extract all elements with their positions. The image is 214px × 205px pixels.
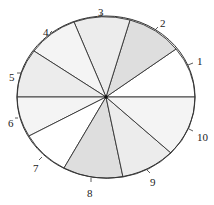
sector-label-4: 4 [43,26,49,38]
spinner-diagram: 12345678910 [0,0,214,205]
sector-label-8: 8 [87,187,93,199]
label-tick-1 [188,63,193,65]
sector-label-6: 6 [8,117,14,129]
sector-label-3: 3 [98,6,104,18]
spinner-center-dot [104,95,108,99]
sector-label-2: 2 [160,17,166,29]
label-tick-7 [39,157,42,160]
label-tick-2 [155,27,158,30]
sector-label-9: 9 [150,176,156,188]
label-tick-10 [189,129,193,131]
label-tick-9 [147,170,150,173]
sector-label-1: 1 [197,55,203,67]
sector-label-7: 7 [33,162,39,174]
sector-label-5: 5 [9,71,15,83]
sector-label-10: 10 [197,131,209,143]
